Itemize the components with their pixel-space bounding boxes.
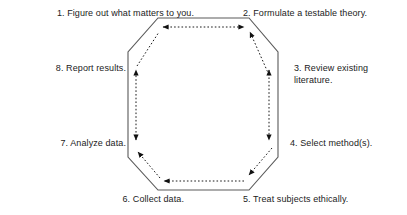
step-label-6: 6. Collect data. — [20, 194, 184, 206]
upper-left-diagonal-arrow — [137, 32, 159, 66]
research-cycle-diagram: 1. Figure out what matters to you. 2. Fo… — [0, 0, 407, 215]
step-label-5: 5. Treat subjects ethically. — [243, 194, 405, 206]
step-label-4: 4. Select method(s). — [290, 138, 406, 150]
lower-right-diagonal-arrow — [249, 148, 272, 175]
step-label-7: 7. Analyze data. — [0, 138, 126, 150]
lower-left-diagonal-arrow — [138, 152, 160, 178]
octagon-diagram-svg — [0, 0, 407, 215]
step-label-1: 1. Figure out what matters to you. — [14, 8, 194, 20]
step-label-3: 3. Review existing literature. — [294, 63, 406, 86]
step-label-8: 8. Report results. — [0, 63, 126, 75]
step-label-2: 2. Formulate a testable theory. — [243, 8, 405, 20]
